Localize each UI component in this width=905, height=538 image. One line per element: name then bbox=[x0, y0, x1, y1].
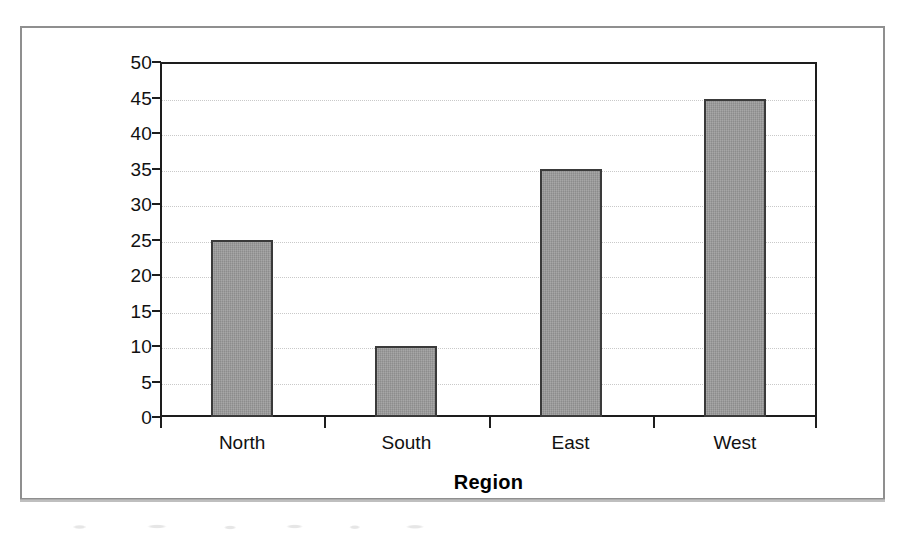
x-axis-title: Region bbox=[160, 471, 817, 494]
y-axis-tick-label: 50 bbox=[130, 53, 152, 72]
y-axis-tick-labels: 05101520253035404550 bbox=[118, 62, 152, 417]
y-axis-tick-label: 15 bbox=[130, 301, 152, 320]
figure-frame: Sales 05101520253035404550 NorthSouthEas… bbox=[20, 26, 885, 500]
y-axis-tick-label: 35 bbox=[130, 159, 152, 178]
y-axis-tick-label: 45 bbox=[130, 88, 152, 107]
x-axis-tick-label-north: North bbox=[219, 432, 265, 455]
x-axis-tick-labels: NorthSouthEastWest bbox=[160, 432, 817, 460]
y-axis-title: Sales bbox=[70, 0, 96, 88]
x-axis-tick-marks bbox=[160, 417, 817, 429]
x-axis-tick-mark bbox=[815, 417, 817, 428]
bar-north[interactable] bbox=[211, 240, 273, 418]
y-axis-tick-label: 30 bbox=[130, 195, 152, 214]
bar-east[interactable] bbox=[540, 169, 602, 418]
x-axis-tick-label-south: South bbox=[382, 432, 432, 455]
scan-artifact-smudge bbox=[28, 521, 458, 531]
bar-south[interactable] bbox=[375, 346, 437, 417]
y-axis-tick-label: 5 bbox=[141, 372, 152, 391]
x-axis-tick-label-east: East bbox=[552, 432, 590, 455]
x-axis-tick-mark bbox=[160, 417, 162, 428]
y-axis-tick-label: 40 bbox=[130, 124, 152, 143]
y-axis-tick-label: 25 bbox=[130, 230, 152, 249]
x-axis-tick-label-west: West bbox=[713, 432, 756, 455]
y-axis-tick-label: 10 bbox=[130, 337, 152, 356]
x-axis-tick-mark bbox=[324, 417, 326, 428]
y-axis-tick-label: 0 bbox=[141, 408, 152, 427]
bar-chart: Sales 05101520253035404550 NorthSouthEas… bbox=[22, 28, 883, 498]
y-axis-tick-label: 20 bbox=[130, 266, 152, 285]
x-axis-tick-mark bbox=[489, 417, 491, 428]
x-axis-tick-mark bbox=[653, 417, 655, 428]
bar-west[interactable] bbox=[704, 99, 766, 417]
